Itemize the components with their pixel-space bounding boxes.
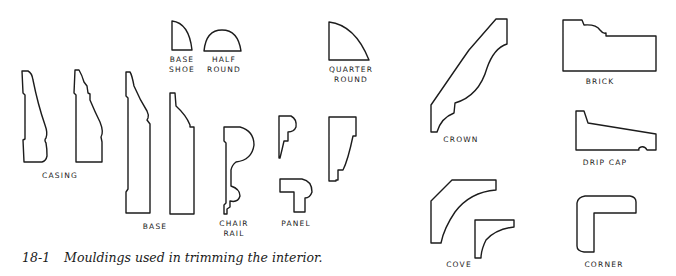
corner-profile	[577, 196, 636, 252]
label-quarter-round: QUARTER ROUND	[329, 65, 373, 85]
figure-number: 18-1	[22, 250, 50, 265]
drip-cap-profile	[576, 111, 656, 150]
label-crown: CROWN	[443, 135, 478, 145]
base-profile-2	[170, 93, 194, 214]
base-shoe-profile	[172, 21, 192, 50]
casing-profile-2	[74, 70, 102, 162]
label-corner: CORNER	[584, 260, 623, 270]
chair-rail-profile	[224, 127, 254, 214]
figure-caption-text: Mouldings used in trimming the interior.	[64, 250, 322, 265]
cove-profile-2	[475, 220, 514, 258]
moulding-diagram: CASING BASE SHOE HALF ROUND QUARTER ROUN…	[0, 0, 676, 276]
label-panel: PANEL	[281, 219, 311, 229]
panel-profile-3	[329, 117, 356, 181]
cove-profile-1	[431, 180, 496, 243]
label-half-round: HALF ROUND	[207, 55, 241, 75]
moulding-profiles	[0, 0, 676, 276]
panel-profile-2	[280, 179, 312, 212]
base-profile-1	[126, 72, 150, 213]
label-drip-cap: DRIP CAP	[583, 158, 628, 168]
label-cove: COVE	[446, 260, 472, 270]
half-round-profile	[204, 30, 241, 51]
label-casing: CASING	[42, 171, 78, 181]
label-base: BASE	[143, 222, 168, 232]
label-chair-rail: CHAIR RAIL	[219, 219, 248, 239]
crown-profile	[431, 19, 507, 132]
quarter-round-profile	[329, 22, 369, 60]
label-brick: BRICK	[586, 77, 615, 87]
figure-caption: 18-1Mouldings used in trimming the inter…	[22, 250, 322, 265]
brick-profile	[563, 20, 656, 71]
panel-profile-1	[279, 116, 296, 158]
casing-profile-1	[22, 71, 47, 162]
label-base-shoe: BASE SHOE	[169, 55, 195, 75]
